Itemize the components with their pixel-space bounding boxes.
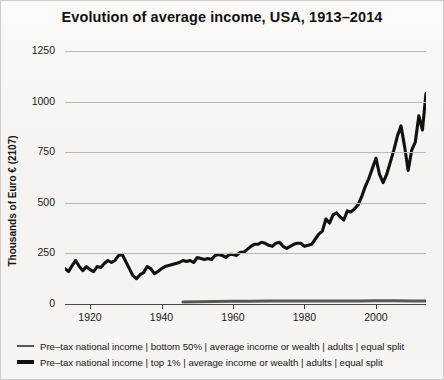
legend-label-top-1-percent: Pre–tax national income | top 1% | avera… (40, 357, 383, 368)
y-tick-label-1000: 1000 (3, 95, 55, 107)
gridline-1000 (65, 102, 426, 103)
plot-area: 025050075010001250 (65, 51, 426, 304)
x-tick-2000 (376, 304, 377, 309)
gridline-500 (65, 203, 426, 204)
legend-item: Pre–tax national income | top 1% | avera… (17, 355, 433, 369)
gridline-750 (65, 152, 426, 153)
series-line-top-1-percent (65, 94, 426, 279)
chart-title: Evolution of average income, USA, 1913–2… (1, 9, 443, 25)
gridline-250 (65, 253, 426, 254)
legend-marker-top-1-percent (17, 360, 34, 364)
chart-container: Evolution of average income, USA, 1913–2… (0, 0, 444, 380)
chart-legend: Pre–tax national income | bottom 50% | a… (17, 339, 433, 371)
y-tick-label-0: 0 (3, 297, 55, 309)
y-tick-label-500: 500 (3, 196, 55, 208)
x-tick-1920 (90, 304, 91, 309)
x-axis: 19201940196019802000 (65, 304, 426, 328)
x-tick-label-1980: 1980 (279, 311, 329, 323)
y-tick-label-250: 250 (3, 246, 55, 258)
x-tick-label-2000: 2000 (351, 311, 401, 323)
x-tick-1940 (162, 304, 163, 309)
y-tick-label-750: 750 (3, 145, 55, 157)
x-tick-label-1920: 1920 (65, 311, 115, 323)
x-tick-label-1940: 1940 (137, 311, 187, 323)
gridline-1250 (65, 51, 426, 52)
x-tick-1980 (304, 304, 305, 309)
y-tick-label-1250: 1250 (3, 44, 55, 56)
series-line-bottom-50-percent (183, 301, 426, 302)
legend-label-bottom-50-percent: Pre–tax national income | bottom 50% | a… (40, 341, 404, 352)
series-lines (65, 51, 426, 304)
legend-marker-bottom-50-percent (17, 345, 34, 348)
legend-item: Pre–tax national income | bottom 50% | a… (17, 339, 433, 353)
x-tick-1960 (233, 304, 234, 309)
x-tick-label-1960: 1960 (208, 311, 258, 323)
